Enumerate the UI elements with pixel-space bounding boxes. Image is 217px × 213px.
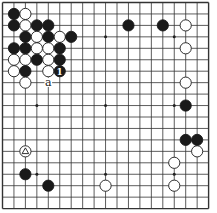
stone-circle (180, 77, 191, 88)
star-point (35, 104, 38, 107)
go-board: 1 a (0, 0, 217, 213)
stone-circle (180, 100, 191, 111)
move-number-label: 1 (57, 67, 63, 77)
black-stone: 1 (54, 66, 65, 77)
black-stone (180, 100, 191, 111)
white-stone (180, 77, 191, 88)
stone-circle (43, 20, 54, 31)
white-stone (43, 66, 54, 77)
black-stone (43, 20, 54, 31)
white-stone (20, 54, 31, 65)
black-stone (31, 20, 42, 31)
white-stone (20, 146, 31, 157)
black-stone (20, 169, 31, 180)
labels-layer: a (45, 76, 53, 89)
black-stone (20, 31, 31, 42)
white-stone (8, 66, 19, 77)
star-point (173, 35, 176, 38)
stone-circle (180, 20, 191, 31)
black-stone (54, 54, 65, 65)
stone-circle (31, 20, 42, 31)
star-point (104, 35, 107, 38)
black-stone (123, 20, 134, 31)
stone-circle (54, 31, 65, 42)
white-stone (100, 180, 111, 191)
white-stone (180, 20, 191, 31)
black-stone (20, 43, 31, 54)
stone-circle (169, 180, 180, 191)
black-stone (20, 66, 31, 77)
black-stone (43, 31, 54, 42)
stone-circle (157, 20, 168, 31)
stone-circle (31, 54, 42, 65)
black-stone (66, 31, 77, 42)
stone-circle (54, 54, 65, 65)
stone-circle (20, 43, 31, 54)
point-label-a: a (45, 76, 52, 89)
black-stone (8, 8, 19, 19)
white-stone (180, 43, 191, 54)
white-stone (20, 77, 31, 88)
star-point (173, 104, 176, 107)
black-stone (31, 54, 42, 65)
stone-circle (20, 54, 31, 65)
stone-circle (192, 134, 203, 145)
white-stone (20, 8, 31, 19)
stone-circle (43, 43, 54, 54)
stone-circle (180, 134, 191, 145)
stone-circle (123, 20, 134, 31)
stone-circle (54, 43, 65, 54)
stone-circle (100, 180, 111, 191)
stone-circle (20, 169, 31, 180)
stone-circle (8, 66, 19, 77)
stone-circle (8, 8, 19, 19)
stone-circle (20, 20, 31, 31)
white-stone (192, 146, 203, 157)
star-point (173, 173, 176, 176)
stone-circle (31, 31, 42, 42)
stone-circle (20, 77, 31, 88)
star-point (104, 173, 107, 176)
stone-circle (43, 54, 54, 65)
stone-circle (8, 43, 19, 54)
white-stone (169, 157, 180, 168)
black-stone (8, 20, 19, 31)
stone-circle (192, 146, 203, 157)
white-stone (8, 54, 19, 65)
stone-circle (43, 66, 54, 77)
stone-circle (20, 31, 31, 42)
stone-circle (20, 8, 31, 19)
white-stone (54, 31, 65, 42)
white-stone (20, 20, 31, 31)
white-stone (31, 43, 42, 54)
black-stone (8, 43, 19, 54)
black-stone (180, 134, 191, 145)
stone-circle (180, 43, 191, 54)
stone-circle (31, 43, 42, 54)
star-point (104, 104, 107, 107)
stone-circle (43, 180, 54, 191)
white-stone (31, 31, 42, 42)
stone-circle (169, 157, 180, 168)
stone-circle (66, 31, 77, 42)
stone-circle (8, 20, 19, 31)
black-stone (43, 180, 54, 191)
stone-circle (8, 54, 19, 65)
black-stone (192, 134, 203, 145)
black-stone (157, 20, 168, 31)
stone-circle (43, 31, 54, 42)
white-stone (169, 180, 180, 191)
star-point (35, 173, 38, 176)
white-stone (43, 43, 54, 54)
stone-circle (20, 66, 31, 77)
black-stone (54, 43, 65, 54)
white-stone (43, 54, 54, 65)
